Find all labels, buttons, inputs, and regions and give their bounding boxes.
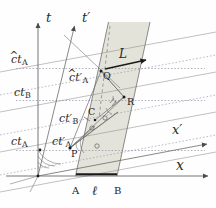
rod-worldtube-shade — [76, 22, 151, 176]
hat-accent-2: ^ — [68, 68, 77, 78]
measure-label-ell: ℓ — [92, 184, 97, 197]
point-label-B: B — [114, 186, 121, 196]
tick-label-ct-A-prime: ct′A — [52, 136, 71, 149]
tick-label-ct-A: ctA — [11, 136, 28, 149]
point-label-R: R — [127, 97, 134, 107]
subscript-B-2: B — [72, 117, 78, 126]
dot-origin — [37, 175, 40, 178]
dot-ct-A-axis — [39, 149, 42, 152]
axis-label-x-prime: x′ — [172, 123, 182, 136]
hat-accent-1: ^ — [10, 50, 19, 60]
dot-C — [94, 119, 97, 122]
t-prime-axis — [38, 26, 75, 176]
prime-mark-t: ′ — [87, 10, 90, 25]
axis-label-x: x — [176, 158, 184, 172]
tick-label-ct-hat-A-prime: ^ct′A — [69, 72, 88, 85]
tick-label-ct-B: ctB — [14, 87, 31, 100]
tick-label-ct-B-prime: ct′B — [59, 113, 78, 126]
subscript-B-1: B — [25, 91, 31, 100]
dot-R — [123, 96, 126, 99]
point-label-Q: Q — [103, 71, 111, 81]
axis-label-t-prime: t′ — [82, 11, 90, 24]
axis-label-t: t — [46, 11, 51, 24]
measure-label-L: L — [119, 48, 127, 60]
subscript-A-1: A — [22, 58, 28, 67]
point-label-C: C — [88, 107, 95, 117]
angle-arc-origin-1 — [38, 162, 49, 168]
subscript-A-3: A — [82, 76, 88, 85]
diagram-canvas — [0, 0, 216, 208]
prime-mark-x: ′ — [179, 122, 182, 137]
point-label-A: A — [72, 186, 79, 196]
subscript-A-2: A — [22, 140, 28, 149]
minkowski-diagram: t t′ x x′ ^ctA ctB ctA ^ct′A ct′B ct′A Q… — [0, 0, 216, 208]
x-prime-axis-back — [10, 176, 38, 184]
t-prime-axis-back — [30, 176, 38, 192]
point-label-P: P — [71, 149, 77, 159]
tick-label-ct-hat-A: ^ctA — [11, 54, 28, 67]
